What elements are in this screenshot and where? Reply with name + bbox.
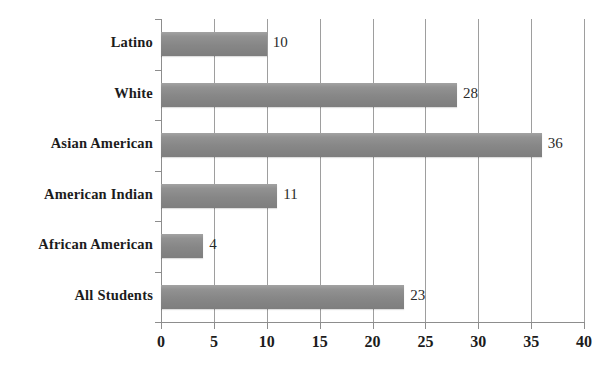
bar-chart: 10283611423 LatinoWhiteAsian AmericanAme… — [0, 0, 603, 371]
category-label: Latino — [0, 34, 153, 51]
bar — [161, 133, 542, 157]
x-axis-tick-label: 15 — [312, 333, 328, 351]
gridline — [584, 19, 585, 322]
y-axis-tick — [155, 120, 161, 121]
y-axis-tick — [155, 19, 161, 20]
x-axis-tick — [214, 322, 215, 329]
bar — [161, 234, 203, 258]
category-label: Asian American — [0, 135, 153, 152]
y-axis-tick — [155, 272, 161, 273]
category-axis-labels: LatinoWhiteAsian AmericanAmerican Indian… — [0, 0, 153, 371]
bar-value-label: 10 — [273, 34, 288, 51]
bar-value-label: 36 — [548, 135, 563, 152]
plot-area — [161, 19, 584, 322]
y-axis-tick — [155, 221, 161, 222]
bar — [161, 285, 404, 309]
x-axis-tick-label: 40 — [576, 333, 592, 351]
bar-value-label: 11 — [283, 186, 297, 203]
gridline — [267, 19, 268, 322]
y-axis-line — [161, 19, 162, 323]
x-axis-tick-label: 25 — [417, 333, 433, 351]
category-label: All Students — [0, 287, 153, 304]
category-label: American Indian — [0, 186, 153, 203]
gridline — [320, 19, 321, 322]
y-axis-tick — [155, 171, 161, 172]
x-axis-tick — [531, 322, 532, 329]
x-axis-tick — [478, 322, 479, 329]
x-axis-tick-label: 5 — [210, 333, 218, 351]
bar — [161, 83, 457, 107]
x-axis-tick — [267, 322, 268, 329]
x-axis-tick — [425, 322, 426, 329]
y-axis-tick — [155, 322, 161, 323]
x-axis-tick-label: 0 — [157, 333, 165, 351]
y-axis-tick — [155, 70, 161, 71]
gridline — [373, 19, 374, 322]
gridline — [214, 19, 215, 322]
x-axis-tick — [373, 322, 374, 329]
category-label: White — [0, 85, 153, 102]
bar — [161, 32, 267, 56]
x-axis-tick-label: 35 — [523, 333, 539, 351]
gridline — [425, 19, 426, 322]
x-axis-tick-label: 10 — [259, 333, 275, 351]
x-axis-tick — [161, 322, 162, 329]
gridline — [478, 19, 479, 322]
x-axis-tick-label: 20 — [365, 333, 381, 351]
x-axis-tick-label: 30 — [470, 333, 486, 351]
bar-value-label: 28 — [463, 85, 478, 102]
x-axis-tick — [320, 322, 321, 329]
gridline — [531, 19, 532, 322]
x-axis-tick-labels: 0510152025303540 — [0, 333, 603, 363]
bar-value-label: 23 — [410, 287, 425, 304]
x-axis-tick — [584, 322, 585, 329]
bar-value-label: 4 — [209, 236, 217, 253]
category-label: African American — [0, 236, 153, 253]
bar — [161, 184, 277, 208]
